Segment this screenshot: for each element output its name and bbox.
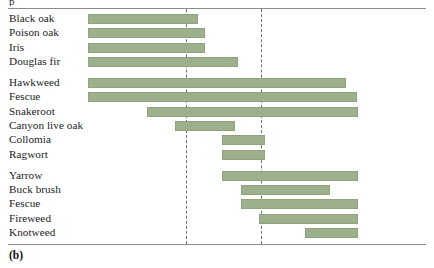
- chart-row: Ragwort: [0, 149, 434, 162]
- chart-row: Fescue: [0, 198, 434, 211]
- range-bar: [175, 121, 235, 131]
- row-label: Fireweed: [9, 212, 51, 225]
- range-bar: [259, 214, 358, 224]
- row-label: Black oak: [9, 12, 55, 25]
- row-label: Knotweed: [9, 226, 55, 239]
- range-bar: [147, 107, 358, 117]
- range-bar: [88, 92, 357, 102]
- chart-row: Black oak: [0, 13, 434, 26]
- chart-row: Iris: [0, 42, 434, 55]
- chart-row: Douglas fir: [0, 56, 434, 69]
- range-bar: [222, 135, 265, 145]
- chart-row: Collomia: [0, 134, 434, 147]
- clipped-text-above-rule: p: [9, 0, 15, 6]
- row-label: Poison oak: [9, 26, 59, 39]
- row-label: Buck brush: [9, 183, 61, 196]
- bottom-rule: [8, 244, 426, 245]
- range-bar: [88, 43, 205, 53]
- chart-row: Hawkweed: [0, 77, 434, 90]
- figure-panel-b: p Black oakPoison oakIrisDouglas firHawk…: [0, 0, 434, 268]
- row-label: Hawkweed: [9, 76, 60, 89]
- range-bar: [241, 199, 358, 209]
- range-bar: [305, 228, 358, 238]
- chart-row: Snakeroot: [0, 106, 434, 119]
- chart-row: Canyon live oak: [0, 120, 434, 133]
- range-bar: [222, 150, 265, 160]
- chart-row: Knotweed: [0, 227, 434, 240]
- row-label: Canyon live oak: [9, 119, 83, 132]
- row-label: Snakeroot: [9, 105, 55, 118]
- range-bar: [88, 14, 198, 24]
- range-bar: [88, 78, 346, 88]
- range-bar: [222, 171, 358, 181]
- chart-row: Yarrow: [0, 170, 434, 183]
- row-label: Fescue: [9, 90, 40, 103]
- chart-row: Buck brush: [0, 184, 434, 197]
- range-bar: [241, 185, 330, 195]
- range-bar: [88, 28, 205, 38]
- row-label: Collomia: [9, 133, 51, 146]
- chart-row: Fireweed: [0, 213, 434, 226]
- row-label: Iris: [9, 41, 24, 54]
- chart-row: Fescue: [0, 91, 434, 104]
- range-bar: [88, 57, 238, 67]
- chart-row: Poison oak: [0, 27, 434, 40]
- figure-caption: (b): [9, 248, 23, 262]
- row-label: Yarrow: [9, 169, 42, 182]
- row-label: Douglas fir: [9, 55, 60, 68]
- row-label: Fescue: [9, 197, 40, 210]
- chart-plot-area: Black oakPoison oakIrisDouglas firHawkwe…: [0, 8, 434, 244]
- row-label: Ragwort: [9, 148, 48, 161]
